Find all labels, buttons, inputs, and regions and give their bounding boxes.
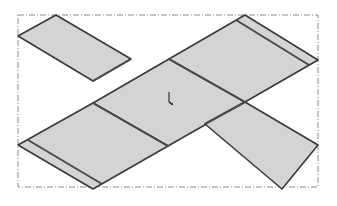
panel-arm-upper-left[interactable] [18,15,131,81]
sheet-panels[interactable] [18,15,318,189]
cad-viewport[interactable] [0,0,337,206]
flat-pattern-drawing[interactable] [0,0,337,206]
